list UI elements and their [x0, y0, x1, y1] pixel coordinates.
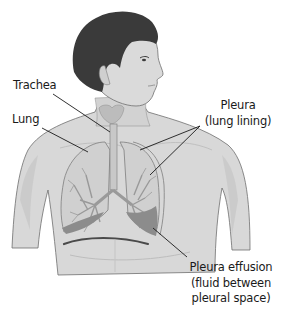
label-trachea: Trachea	[13, 78, 56, 94]
label-effusion-line2: (fluid between	[186, 276, 276, 292]
label-pleura: Pleura (lung lining)	[198, 98, 278, 129]
label-pleura-line1: Pleura	[198, 98, 278, 114]
label-effusion-line3: pleural space)	[186, 291, 276, 307]
head	[73, 12, 163, 106]
label-pleural-effusion: Pleura effusion (fluid between pleural s…	[186, 260, 276, 307]
label-lung: Lung	[12, 112, 39, 128]
label-pleura-line2: (lung lining)	[198, 114, 278, 130]
label-effusion-line1: Pleura effusion	[186, 260, 276, 276]
